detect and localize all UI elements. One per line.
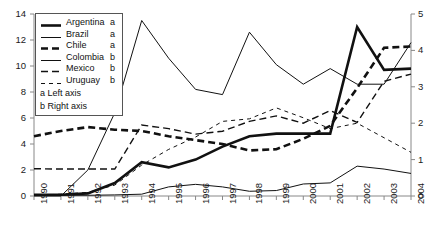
x-axis-tick-1996: 1996	[200, 183, 211, 204]
left-axis-tick-12: 12	[4, 34, 26, 45]
legend-label-brazil: Brazil	[66, 29, 110, 41]
x-axis-tick-1998: 1998	[253, 183, 264, 204]
legend-label-argentina: Argentina	[66, 17, 110, 29]
legend-axis-ref-mexico: b	[110, 63, 118, 75]
legend-axis-ref-chile: a	[110, 40, 118, 52]
legend-note-right-axis: b Right axis	[40, 101, 118, 112]
left-axis-tick-2: 2	[4, 164, 26, 175]
x-axis-tick-2001: 2001	[334, 183, 345, 204]
legend-swatch-chile	[40, 40, 62, 51]
legend-swatch-mexico	[40, 63, 62, 74]
right-axis-tick-3: 3	[418, 81, 440, 92]
left-axis-tick-10: 10	[4, 60, 26, 71]
x-axis-tick-1993: 1993	[119, 183, 130, 204]
series-line-colombia	[34, 166, 411, 195]
left-axis-tick-4: 4	[4, 138, 26, 149]
x-axis-tick-2000: 2000	[307, 183, 318, 204]
legend-axis-ref-argentina: a	[110, 17, 118, 29]
legend-note-left-axis: a Left axis	[40, 88, 118, 99]
legend-label-mexico: Mexico	[66, 63, 110, 75]
legend-entry-brazil: Brazila	[40, 29, 118, 41]
legend-entries: ArgentinaaBrazilaChileaColombiabMexicobU…	[40, 17, 118, 86]
legend-axis-ref-brazil: a	[110, 29, 118, 41]
left-axis-tick-0: 0	[4, 190, 26, 201]
right-axis-tick-5: 5	[418, 8, 440, 19]
x-axis-tick-1995: 1995	[173, 183, 184, 204]
legend-label-chile: Chile	[66, 40, 110, 52]
legend-entry-colombia: Colombiab	[40, 52, 118, 64]
x-axis-tick-1999: 1999	[280, 183, 291, 204]
x-axis-tick-2002: 2002	[361, 183, 372, 204]
legend-entry-chile: Chilea	[40, 40, 118, 52]
x-axis-tick-1991: 1991	[65, 183, 76, 204]
x-axis-tick-1990: 1990	[38, 183, 49, 204]
x-axis-tick-2004: 2004	[415, 183, 426, 204]
legend-swatch-colombia	[40, 52, 62, 63]
left-axis-tick-6: 6	[4, 112, 26, 123]
x-axis-tick-1997: 1997	[227, 183, 238, 204]
legend-entry-argentina: Argentinaa	[40, 17, 118, 29]
left-axis-tick-8: 8	[4, 86, 26, 97]
right-axis-tick-1: 1	[418, 154, 440, 165]
legend-entry-mexico: Mexicob	[40, 63, 118, 75]
chart-container: 02468101214 012345 199019911992199319941…	[0, 0, 445, 236]
right-axis-tick-2: 2	[418, 117, 440, 128]
legend-swatch-brazil	[40, 29, 62, 40]
legend-axis-ref-uruguay: b	[110, 75, 118, 87]
legend-swatch-argentina	[40, 17, 62, 28]
legend-label-colombia: Colombia	[66, 52, 110, 64]
legend-swatch-uruguay	[40, 75, 62, 86]
left-axis-tick-14: 14	[4, 8, 26, 19]
legend-axis-ref-colombia: b	[110, 52, 118, 64]
right-axis-tick-4: 4	[418, 44, 440, 55]
x-axis-tick-1992: 1992	[92, 183, 103, 204]
legend-label-uruguay: Uruguay	[66, 75, 110, 87]
x-axis-tick-1994: 1994	[146, 183, 157, 204]
x-axis-tick-2003: 2003	[388, 183, 399, 204]
legend-entry-uruguay: Uruguayb	[40, 75, 118, 87]
chart-legend: ArgentinaaBrazilaChileaColombiabMexicobU…	[35, 13, 123, 116]
